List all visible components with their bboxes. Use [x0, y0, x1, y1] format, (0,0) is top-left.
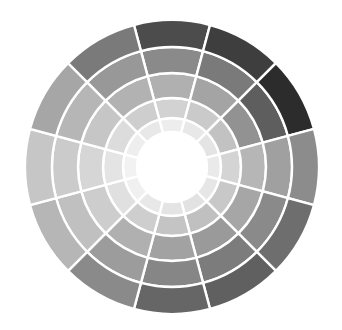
wheel-center-disc — [137, 132, 207, 202]
wheel-segment — [148, 73, 197, 100]
wheel-segment — [25, 129, 56, 205]
wheel-segment — [52, 136, 81, 198]
grayscale-color-wheel: Grayscale color wheel — [0, 0, 342, 330]
wheel-segment — [141, 258, 203, 287]
wheel-segment — [263, 136, 292, 198]
wheel-segment — [148, 234, 197, 261]
color-wheel-container: Grayscale color wheel — [0, 0, 342, 330]
wheel-segment — [134, 20, 210, 51]
wheel-segment — [288, 129, 319, 205]
wheel-segment — [141, 47, 203, 76]
wheel-segment — [134, 283, 210, 314]
wheel-segment — [239, 143, 266, 192]
wheel-segment — [78, 143, 105, 192]
